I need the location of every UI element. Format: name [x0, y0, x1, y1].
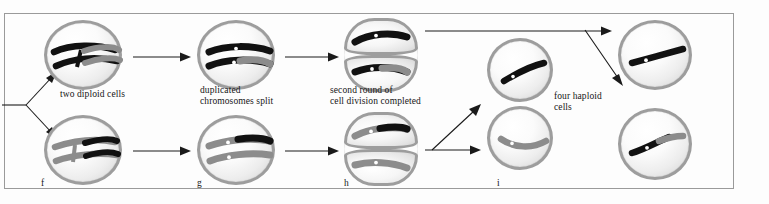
- chromatid-final-top: [629, 47, 687, 69]
- label-second-round-line2: cell division completed: [330, 96, 421, 108]
- stage-letter-g: g: [197, 178, 202, 188]
- cell-g-top: [197, 20, 275, 90]
- label-second-round-line1: second round of: [330, 85, 393, 97]
- cell-f-top: [44, 20, 122, 90]
- label-four-haploid-line2: cells: [554, 102, 572, 114]
- cell-i-lower: [487, 106, 553, 170]
- cell-g-bottom: [197, 115, 275, 185]
- cell-h-top: [344, 18, 418, 92]
- stage-letter-i: i: [497, 178, 500, 188]
- cell-f-bottom: [44, 115, 122, 185]
- stage-letter-f: f: [41, 178, 44, 188]
- chromatid-final-bottom: [629, 133, 687, 159]
- split-chromatids-top: [206, 43, 274, 75]
- label-four-haploid-line1: four haploid: [554, 91, 602, 103]
- cell-final-bottom: [618, 108, 692, 180]
- label-two-diploid-cells: two diploid cells: [60, 89, 125, 101]
- cell-h-bottom: [344, 112, 418, 186]
- cell-final-top: [618, 20, 692, 90]
- split-chromatids-bottom: [206, 135, 274, 171]
- chromatid-i-upper: [500, 61, 550, 87]
- stage-letter-h: h: [344, 178, 349, 188]
- label-duplicated-line1: duplicated: [200, 85, 241, 97]
- chromosome-pair-black-gray: [51, 41, 121, 77]
- chromatid-i-lower: [498, 133, 550, 153]
- chromosome-pair-gray-black: [51, 134, 121, 172]
- cell-i-upper: [487, 38, 553, 102]
- label-duplicated-line2: chromosomes split: [200, 96, 273, 108]
- meiosis-figure: two diploid cells f duplicated chromos: [0, 0, 769, 204]
